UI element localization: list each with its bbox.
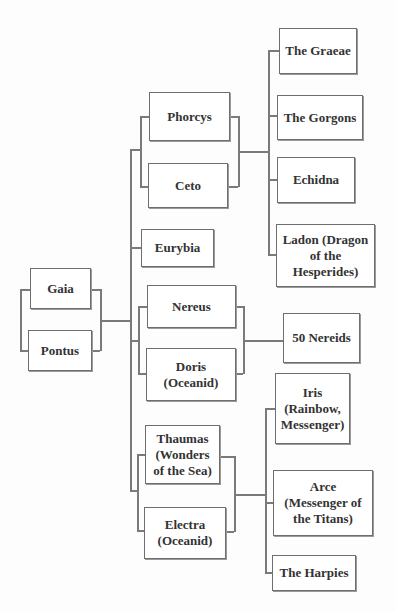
node-echidna: Echidna bbox=[277, 157, 355, 203]
connector bbox=[268, 254, 276, 256]
node-phorcys: Phorcys bbox=[149, 92, 230, 141]
connector bbox=[137, 454, 139, 531]
connector bbox=[228, 186, 238, 188]
node-arce: Arce (Messenger of the Titans) bbox=[273, 470, 373, 536]
connector bbox=[138, 373, 146, 375]
node-gorgons: The Gorgons bbox=[277, 95, 363, 140]
connector bbox=[92, 350, 100, 352]
node-50-nereids: 50 Nereids bbox=[283, 313, 360, 363]
connector bbox=[265, 502, 273, 504]
connector bbox=[130, 149, 132, 491]
connector bbox=[20, 289, 22, 351]
connector bbox=[100, 320, 131, 322]
connector bbox=[265, 408, 275, 410]
connector bbox=[236, 373, 243, 375]
connector bbox=[265, 572, 272, 574]
node-nereus: Nereus bbox=[147, 285, 236, 328]
node-graeae: The Graeae bbox=[279, 28, 357, 74]
connector bbox=[140, 116, 142, 187]
node-pontus: Pontus bbox=[28, 330, 92, 371]
node-thaumas: Thaumas (Wonders of the Sea) bbox=[145, 425, 220, 484]
node-ceto: Ceto bbox=[148, 163, 228, 208]
connector bbox=[90, 289, 100, 291]
node-iris: Iris (Rainbow, Messenger) bbox=[275, 373, 350, 444]
connector bbox=[268, 50, 279, 52]
connector bbox=[243, 340, 283, 342]
connector bbox=[268, 179, 277, 181]
node-ladon: Ladon (Dragon of the Hesperides) bbox=[276, 224, 375, 287]
connector bbox=[20, 350, 28, 352]
connector bbox=[138, 306, 140, 374]
node-gaia: Gaia bbox=[30, 268, 91, 309]
connector bbox=[140, 116, 149, 118]
connector bbox=[226, 531, 234, 533]
node-harpies: The Harpies bbox=[272, 555, 356, 591]
connector bbox=[268, 50, 270, 255]
connector bbox=[220, 456, 234, 458]
connector bbox=[234, 494, 265, 496]
connector bbox=[20, 289, 30, 291]
connector bbox=[138, 306, 147, 308]
connector bbox=[140, 186, 148, 188]
connector bbox=[137, 454, 145, 456]
node-doris: Doris (Oceanid) bbox=[146, 348, 236, 401]
connector bbox=[268, 115, 277, 117]
connector bbox=[236, 306, 243, 308]
node-electra: Electra (Oceanid) bbox=[144, 507, 226, 559]
connector bbox=[130, 149, 140, 151]
connector bbox=[130, 247, 141, 249]
connector bbox=[238, 151, 269, 153]
connector bbox=[265, 408, 267, 573]
node-eurybia: Eurybia bbox=[141, 229, 214, 267]
connector bbox=[230, 116, 238, 118]
connector bbox=[137, 530, 144, 532]
